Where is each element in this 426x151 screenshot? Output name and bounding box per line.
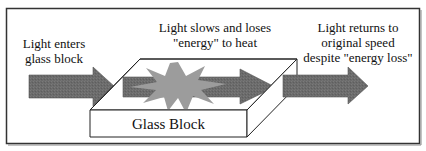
label-line: glass block	[10, 51, 98, 66]
stage-label-enter: Light enters glass block	[10, 36, 98, 66]
label-line: "energy" to heat	[148, 35, 282, 50]
stage-label-return: Light returns to original speed despite …	[300, 20, 416, 65]
label-line: Light returns to	[300, 20, 416, 35]
label-line: despite "energy loss"	[300, 50, 416, 65]
glass-block-label: Glass Block	[90, 115, 247, 133]
diagram-canvas: Light enters glass block Light slows and…	[0, 0, 426, 151]
label-line: Light slows and loses	[148, 20, 282, 35]
label-line: Light enters	[10, 36, 98, 51]
stage-label-slow: Light slows and loses "energy" to heat	[148, 20, 282, 50]
label-line: original speed	[300, 35, 416, 50]
